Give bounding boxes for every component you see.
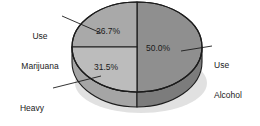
- slice-label-heavy-drinking-line1: Heavy: [6, 103, 58, 113]
- slice-label-use-alcohol: Use Alcohol: [214, 40, 258, 120]
- slice-value-use-alcohol: 50.0%: [140, 43, 176, 53]
- slice-label-use-marijuana-line2: Marijuana: [14, 61, 66, 71]
- slice-value-use-marijuana: 26.7%: [90, 26, 126, 36]
- slice-label-heavy-drinking: Heavy Drinking: [6, 83, 58, 126]
- slice-value-heavy-drinking: 31.5%: [88, 62, 124, 72]
- pie-chart-figure: Use Marijuana Heavy Drinking Use Alcohol…: [0, 0, 260, 126]
- slice-label-use-marijuana: Use Marijuana: [14, 11, 66, 91]
- slice-label-use-marijuana-line1: Use: [14, 31, 66, 41]
- slice-label-use-alcohol-line1: Use: [214, 60, 258, 70]
- slice-label-use-alcohol-line2: Alcohol: [214, 90, 258, 100]
